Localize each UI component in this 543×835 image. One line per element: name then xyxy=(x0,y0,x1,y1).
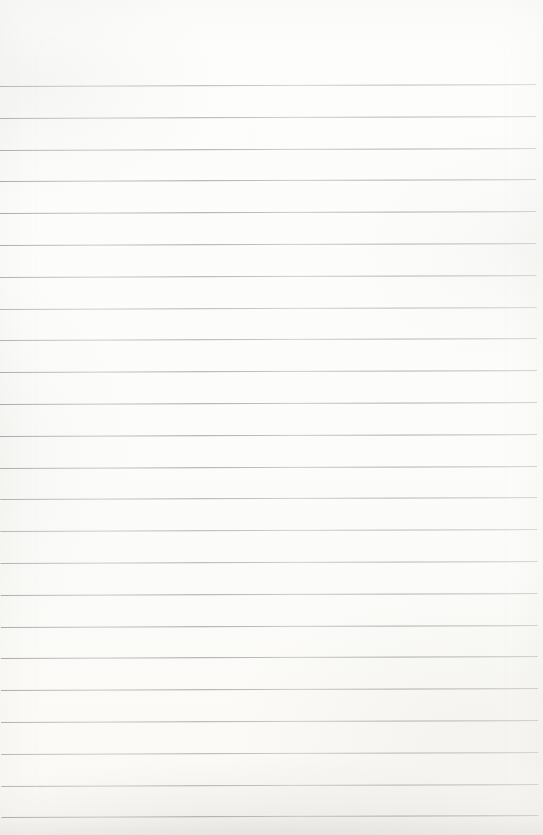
ruled-line xyxy=(0,529,537,532)
ruled-line xyxy=(0,307,537,310)
ruled-line xyxy=(0,243,536,246)
ruled-line xyxy=(1,656,538,659)
ruled-line xyxy=(0,179,536,182)
ruled-line xyxy=(1,784,538,787)
ruled-line xyxy=(1,688,538,691)
ruled-line xyxy=(0,370,537,373)
ruled-line xyxy=(0,402,537,405)
ruled-line xyxy=(1,625,538,628)
ruled-line xyxy=(0,466,537,469)
ruled-line xyxy=(0,497,537,500)
ruled-line xyxy=(0,338,537,341)
ruled-line xyxy=(0,84,536,87)
notebook-page xyxy=(0,0,543,835)
ruled-line xyxy=(0,148,536,151)
ruled-line xyxy=(0,211,536,214)
ruled-line xyxy=(1,720,538,723)
bottom-margin-shading xyxy=(0,818,543,835)
ruled-line xyxy=(0,116,536,119)
ruled-line xyxy=(0,275,537,278)
ruled-line xyxy=(1,561,538,564)
ruled-line xyxy=(1,593,538,596)
ruled-line xyxy=(0,434,537,437)
ruled-lines-layer xyxy=(0,0,543,835)
ruled-line xyxy=(1,752,538,755)
